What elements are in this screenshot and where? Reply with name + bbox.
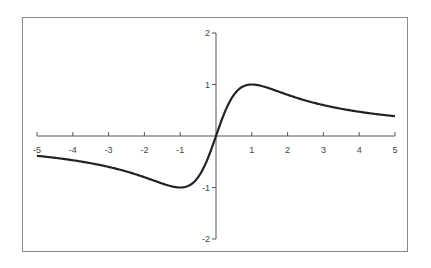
tick-label: -2 [202, 234, 210, 244]
tick-label: 2 [285, 145, 290, 155]
tick-label: -2 [140, 145, 148, 155]
tick-label: 4 [357, 145, 362, 155]
line-chart: -5-4-3-2-11234521-1-2 [0, 0, 431, 268]
tick-label: -5 [33, 145, 41, 155]
tick-label: 1 [205, 80, 210, 90]
tick-label: 1 [249, 145, 254, 155]
tick-label: -1 [202, 183, 210, 193]
tick-label: 5 [392, 145, 397, 155]
tick-label: 3 [321, 145, 326, 155]
tick-label: -1 [176, 145, 184, 155]
tick-label: -3 [105, 145, 113, 155]
tick-label: -4 [69, 145, 77, 155]
tick-label: 2 [205, 28, 210, 38]
